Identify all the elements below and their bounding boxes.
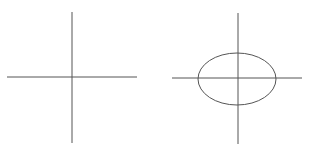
ellipse-shape: [198, 53, 276, 105]
left-panel-axes: [7, 12, 137, 143]
diagram-svg: [0, 0, 311, 153]
right-panel-axes-with-ellipse: [172, 13, 302, 144]
diagram-canvas: [0, 0, 311, 153]
